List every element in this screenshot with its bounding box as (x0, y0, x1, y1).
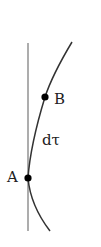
point-b-label: B (54, 90, 65, 108)
diagram-canvas: B A dτ (0, 0, 101, 247)
point-b-marker (41, 93, 48, 100)
proper-time-label: dτ (42, 131, 60, 149)
point-a-label: A (6, 168, 18, 186)
point-a-marker (24, 174, 31, 181)
